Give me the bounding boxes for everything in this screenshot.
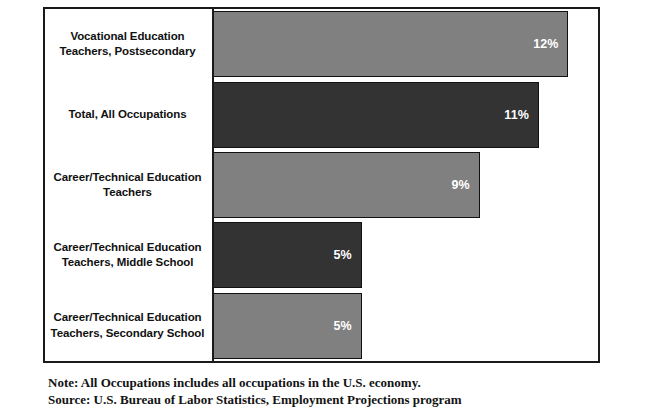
bar: 12% (214, 11, 568, 77)
bar-row: Total, All Occupations11% (45, 79, 598, 149)
bar-category-label-line1: Career/Technical Education (53, 311, 201, 323)
bar-track: 5% (212, 291, 598, 361)
bar-track: 9% (212, 150, 598, 220)
bar-row: Career/Technical EducationTeachers, Seco… (45, 291, 598, 361)
bar-category-label-line1: Total, All Occupations (69, 108, 187, 120)
chart-footnotes: Note: All Occupations includes all occup… (48, 374, 648, 408)
bar-track: 11% (212, 79, 598, 149)
bar-value-label: 11% (504, 108, 538, 122)
bar-category-label: Total, All Occupations (45, 79, 212, 149)
bar-category-label-line1: Career/Technical Education (53, 241, 201, 253)
bar-value-label: 9% (452, 178, 479, 192)
bar-value-label: 5% (333, 319, 360, 333)
bar-category-label: Career/Technical EducationTeachers, Seco… (45, 291, 212, 361)
bar-value-label: 12% (533, 37, 567, 51)
bar-category-label: Vocational EducationTeachers, Postsecond… (45, 9, 212, 79)
bar-category-label: Career/Technical EducationTeachers, Midd… (45, 220, 212, 290)
bar-row: Career/Technical EducationTeachers9% (45, 150, 598, 220)
bar-value-label: 5% (333, 248, 360, 262)
source-line: Source: U.S. Bureau of Labor Statistics,… (48, 391, 648, 408)
bar-row: Career/Technical EducationTeachers, Midd… (45, 220, 598, 290)
bar-chart-figure: Vocational EducationTeachers, Postsecond… (43, 7, 600, 363)
note-line: Note: All Occupations includes all occup… (48, 374, 648, 391)
plot-area: Vocational EducationTeachers, Postsecond… (45, 9, 598, 361)
bar: 9% (214, 152, 480, 218)
bar-category-label: Career/Technical EducationTeachers (45, 150, 212, 220)
bar-category-label-line2: Teachers, Secondary School (51, 327, 205, 339)
bar-category-label-line2: Teachers (103, 186, 152, 198)
bar-category-label-line1: Career/Technical Education (53, 171, 201, 183)
bar-category-label-line2: Teachers, Postsecondary (59, 45, 195, 57)
bar: 11% (214, 82, 539, 148)
bar-row: Vocational EducationTeachers, Postsecond… (45, 9, 598, 79)
bar-category-label-line2: Teachers, Middle School (62, 256, 194, 268)
bar-track: 12% (212, 9, 598, 79)
bar-category-label-line1: Vocational Education (70, 30, 184, 42)
bar-track: 5% (212, 220, 598, 290)
bar: 5% (214, 222, 362, 288)
bar: 5% (214, 293, 362, 359)
